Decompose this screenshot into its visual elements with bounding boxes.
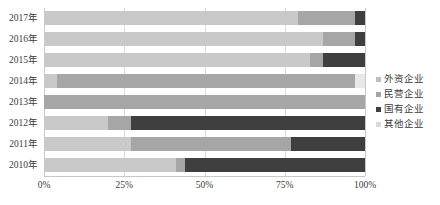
x-axis-tick-labels: 0%25%50%75%100% xyxy=(44,180,365,198)
bar-segment[interactable] xyxy=(131,137,292,151)
legend-item[interactable]: 外资企业 xyxy=(376,72,440,87)
bar-segment[interactable] xyxy=(298,11,356,25)
bar-segment[interactable] xyxy=(323,53,365,67)
stacked-bar[interactable] xyxy=(44,53,365,67)
y-axis-label: 2015年 xyxy=(9,50,38,71)
bar-segment[interactable] xyxy=(44,158,176,172)
stacked-bar[interactable] xyxy=(44,95,365,109)
bar-segment[interactable] xyxy=(176,158,186,172)
bar-row xyxy=(44,134,365,155)
y-axis-label: 2014年 xyxy=(9,71,38,92)
bar-segment[interactable] xyxy=(310,53,323,67)
stacked-bar[interactable] xyxy=(44,32,365,46)
y-axis-category-labels: 2017年2016年2015年2014年2013年2012年2011年2010年 xyxy=(0,8,40,176)
bar-row xyxy=(44,71,365,92)
bar-segment[interactable] xyxy=(323,32,355,46)
x-axis-line xyxy=(44,176,365,177)
bar-segment[interactable] xyxy=(44,74,57,88)
y-axis-label: 2016年 xyxy=(9,29,38,50)
bar-row xyxy=(44,8,365,29)
stacked-bar[interactable] xyxy=(44,11,365,25)
bar-segment[interactable] xyxy=(44,137,131,151)
legend-swatch-icon xyxy=(376,92,381,97)
legend-item[interactable]: 国有企业 xyxy=(376,102,440,117)
x-axis-tick-label: 0% xyxy=(38,180,51,190)
legend-label: 国有企业 xyxy=(384,105,424,115)
bar-segment[interactable] xyxy=(44,116,108,130)
x-axis-tick-label: 100% xyxy=(354,180,376,190)
bar-segment[interactable] xyxy=(355,32,365,46)
bar-segment[interactable] xyxy=(57,74,356,88)
bar-segment[interactable] xyxy=(108,116,130,130)
bar-segment[interactable] xyxy=(44,53,310,67)
y-axis-label: 2011年 xyxy=(9,134,38,155)
legend-label: 外资企业 xyxy=(384,75,424,85)
x-axis-tick-label: 25% xyxy=(116,180,133,190)
gridline xyxy=(365,8,366,176)
legend-label: 其他企业 xyxy=(384,120,424,130)
bar-row xyxy=(44,92,365,113)
bar-row xyxy=(44,113,365,134)
bar-segment[interactable] xyxy=(355,74,365,88)
x-axis-tick-label: 50% xyxy=(196,180,213,190)
legend-item[interactable]: 民营企业 xyxy=(376,87,440,102)
x-axis-tick-label: 75% xyxy=(276,180,293,190)
bar-segment[interactable] xyxy=(44,95,365,109)
stacked-bar[interactable] xyxy=(44,74,365,88)
stacked-bar[interactable] xyxy=(44,137,365,151)
stacked-bar[interactable] xyxy=(44,158,365,172)
stacked-bar-chart: 2017年2016年2015年2014年2013年2012年2011年2010年… xyxy=(0,0,440,205)
legend-swatch-icon xyxy=(376,77,381,82)
legend-item[interactable]: 其他企业 xyxy=(376,117,440,132)
y-axis-label: 2010年 xyxy=(9,155,38,176)
legend-swatch-icon xyxy=(376,122,381,127)
y-axis-label: 2017年 xyxy=(9,8,38,29)
chart-legend: 外资企业民营企业国有企业其他企业 xyxy=(376,72,440,132)
bar-row xyxy=(44,29,365,50)
bar-segment[interactable] xyxy=(355,11,365,25)
y-axis-label: 2013年 xyxy=(9,92,38,113)
bar-segment[interactable] xyxy=(131,116,365,130)
plot-area xyxy=(44,8,365,176)
bar-row xyxy=(44,155,365,176)
bar-segment[interactable] xyxy=(44,11,298,25)
legend-label: 民营企业 xyxy=(384,90,424,100)
y-axis-label: 2012年 xyxy=(9,113,38,134)
legend-swatch-icon xyxy=(376,107,381,112)
stacked-bar[interactable] xyxy=(44,116,365,130)
bar-segment[interactable] xyxy=(44,32,323,46)
bar-segment[interactable] xyxy=(291,137,365,151)
bar-segment[interactable] xyxy=(185,158,365,172)
bar-row xyxy=(44,50,365,71)
